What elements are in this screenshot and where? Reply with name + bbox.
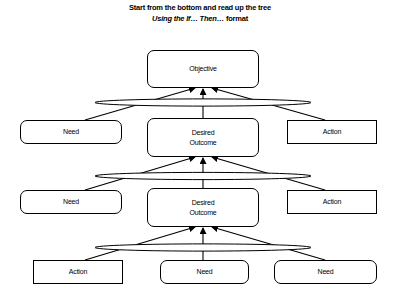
node-desired-outcome-level1: Desired Outcome <box>147 118 259 157</box>
node-action-level1: Action <box>287 120 377 144</box>
node-label-line2: Outcome <box>190 138 217 148</box>
and-connector-2 <box>85 157 325 190</box>
node-need-level1: Need <box>20 120 122 144</box>
node-label: Need <box>318 267 334 277</box>
node-label-line2: Outcome <box>190 208 217 218</box>
node-label: Need <box>197 267 213 277</box>
node-need-level3-center: Need <box>160 260 249 284</box>
node-label: Need <box>63 127 79 137</box>
node-label: Action <box>323 197 341 207</box>
node-action-level3: Action <box>33 260 123 284</box>
node-label-line1: Desired <box>192 128 215 138</box>
node-objective: Objective <box>147 50 259 88</box>
node-label-line1: Desired <box>192 198 215 208</box>
and-connector-1 <box>85 88 325 120</box>
node-need-level3-right: Need <box>274 260 377 284</box>
node-need-level2: Need <box>20 190 122 214</box>
node-label: Need <box>63 197 79 207</box>
node-action-level2: Action <box>287 190 377 214</box>
node-label: Objective <box>189 64 216 74</box>
and-connector-3 <box>85 227 325 260</box>
node-label: Action <box>69 267 87 277</box>
node-desired-outcome-level2: Desired Outcome <box>147 188 259 227</box>
node-label: Action <box>323 127 341 137</box>
